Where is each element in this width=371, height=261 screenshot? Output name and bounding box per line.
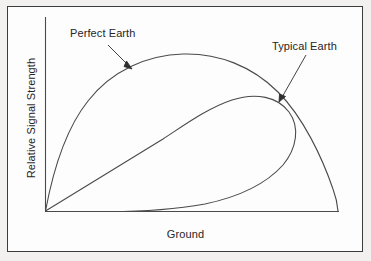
typical-earth-annotation-label: Typical Earth: [272, 40, 337, 52]
figure-page: Perfect Earth Typical Earth Ground Relat…: [0, 0, 371, 261]
y-axis-label: Relative Signal Strength: [25, 38, 37, 198]
curves-group: [46, 54, 339, 212]
annotation-arrows-group: [108, 45, 306, 102]
typical-earth-arrow-head: [279, 94, 286, 102]
perfect-earth-annotation-label: Perfect Earth: [70, 27, 136, 39]
perfect-earth-curve: [46, 54, 339, 211]
typical-earth-arrow-line: [281, 55, 306, 99]
x-axis-label: Ground: [0, 228, 371, 240]
typical-earth-curve: [46, 96, 296, 211]
